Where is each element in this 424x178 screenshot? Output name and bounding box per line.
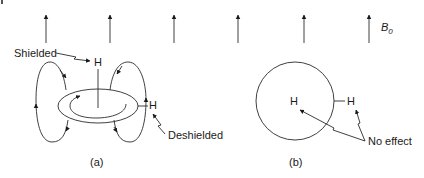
h-inside-label: H	[290, 95, 298, 107]
no-effect-label: No effect	[368, 135, 412, 147]
panel-b: H H No effect (b)	[256, 62, 412, 168]
caption-a: (a)	[90, 156, 103, 168]
no-effect-pointer-inner-icon	[300, 110, 365, 141]
deshielded-pointer-icon	[153, 114, 165, 134]
shielded-pointer-icon	[56, 53, 90, 61]
corner-mark	[1, 0, 3, 4]
h-top-label: H	[94, 56, 102, 68]
deshielded-label: Deshielded	[168, 129, 223, 141]
field-arrows	[46, 15, 369, 43]
no-effect-pointer-outer-icon	[356, 110, 365, 141]
h-outside-label: H	[347, 95, 355, 107]
shielded-label: Shielded	[14, 47, 57, 59]
magnetic-shielding-diagram: B0 Shielded H H Deshielded (a) H H	[0, 0, 424, 178]
h-side-label: H	[149, 99, 157, 111]
panel-a: Shielded H H Deshielded (a)	[14, 47, 223, 168]
field-label: B0	[381, 21, 393, 36]
caption-b: (b)	[289, 156, 302, 168]
